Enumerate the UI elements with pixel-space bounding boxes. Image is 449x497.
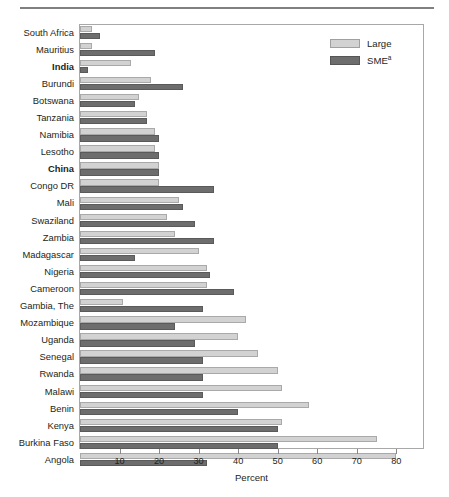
bar-sme [80, 392, 203, 398]
chart-legend: Large SMEa [324, 30, 420, 76]
bar-group [80, 178, 424, 195]
bar-large [80, 436, 377, 442]
bar-sme [80, 323, 175, 329]
x-tick [199, 449, 200, 454]
x-tick [317, 449, 318, 454]
bar-row: Mozambique [0, 315, 449, 332]
bar-sme [80, 409, 238, 415]
category-label: Gambia, The [20, 301, 74, 311]
bar-sme [80, 238, 214, 244]
bar-large [80, 77, 151, 83]
bar-row: Tanzania [0, 109, 449, 126]
bar-large [80, 128, 155, 134]
bar-large [80, 316, 246, 322]
bar-large [80, 333, 238, 339]
bar-large [80, 197, 179, 203]
bar-group [80, 127, 424, 144]
bar-sme [80, 255, 135, 261]
bar-large [80, 231, 175, 237]
bar-group [80, 366, 424, 383]
legend-swatch-sme-icon [330, 56, 360, 65]
bar-group [80, 144, 424, 161]
bar-large [80, 26, 92, 32]
bar-sme [80, 118, 147, 124]
bar-row: Senegal [0, 349, 449, 366]
bar-row: Nigeria [0, 263, 449, 280]
category-label: Cameroon [30, 284, 74, 294]
bar-row: Botswana [0, 92, 449, 109]
bar-sme [80, 374, 203, 380]
figure: South AfricaMauritiusIndiaBurundiBotswan… [0, 0, 449, 497]
bar-group [80, 332, 424, 349]
bar-group [80, 263, 424, 280]
bar-large [80, 248, 199, 254]
category-label: Zambia [43, 233, 74, 243]
bar-large [80, 265, 207, 271]
x-tick-label: 60 [312, 456, 322, 466]
bar-group [80, 400, 424, 417]
bar-large [80, 385, 282, 391]
bar-row: Malawi [0, 383, 449, 400]
x-tick [357, 449, 358, 454]
x-tick-label: 80 [391, 456, 401, 466]
x-tick-label: 20 [154, 456, 164, 466]
bar-large [80, 282, 207, 288]
bar-sme [80, 135, 159, 141]
bar-group [80, 417, 424, 434]
bar-row: Congo DR [0, 178, 449, 195]
x-tick-label: 10 [114, 456, 124, 466]
chart-plot-area: South AfricaMauritiusIndiaBurundiBotswan… [0, 24, 449, 454]
bar-sme [80, 306, 203, 312]
x-tick [120, 449, 121, 454]
bar-sme [80, 357, 203, 363]
category-label: Benin [50, 404, 74, 414]
category-label: Madagascar [22, 250, 74, 260]
bar-large [80, 402, 309, 408]
bar-row: China [0, 161, 449, 178]
bar-group [80, 229, 424, 246]
bar-group [80, 75, 424, 92]
bar-row: Gambia, The [0, 298, 449, 315]
bar-large [80, 299, 123, 305]
bar-group [80, 161, 424, 178]
top-rule-divider [20, 7, 434, 9]
bar-group [80, 315, 424, 332]
x-tick-label: 50 [273, 456, 283, 466]
bar-large [80, 214, 167, 220]
bar-sme [80, 340, 195, 346]
category-label: Mauritius [36, 45, 74, 55]
bar-sme [80, 152, 159, 158]
bar-group [80, 349, 424, 366]
category-label: Mali [57, 198, 74, 208]
legend-item-large: Large [330, 36, 416, 50]
category-label: Senegal [40, 352, 74, 362]
legend-label-sme: SMEa [367, 54, 391, 66]
bar-row: Burundi [0, 75, 449, 92]
category-label: Botswana [33, 96, 74, 106]
bar-group [80, 195, 424, 212]
bar-large [80, 145, 155, 151]
bar-row: Uganda [0, 332, 449, 349]
bar-row: Madagascar [0, 246, 449, 263]
x-tick [278, 449, 279, 454]
bar-row: Swaziland [0, 212, 449, 229]
legend-swatch-large-icon [330, 39, 360, 48]
bar-sme [80, 33, 100, 39]
category-label: Swaziland [31, 216, 74, 226]
category-label: Namibia [40, 130, 74, 140]
bar-sme [80, 289, 234, 295]
bar-large [80, 350, 258, 356]
bar-row: Mali [0, 195, 449, 212]
bar-group [80, 298, 424, 315]
bar-group [80, 280, 424, 297]
bar-row: Namibia [0, 127, 449, 144]
x-axis-title: Percent [79, 472, 424, 483]
x-tick [159, 449, 160, 454]
bar-sme [80, 67, 88, 73]
bar-row: Kenya [0, 417, 449, 434]
bar-sme [80, 84, 183, 90]
bar-rows: South AfricaMauritiusIndiaBurundiBotswan… [0, 24, 449, 468]
x-tick [396, 449, 397, 454]
category-label: Kenya [47, 421, 74, 431]
bar-large [80, 179, 159, 185]
